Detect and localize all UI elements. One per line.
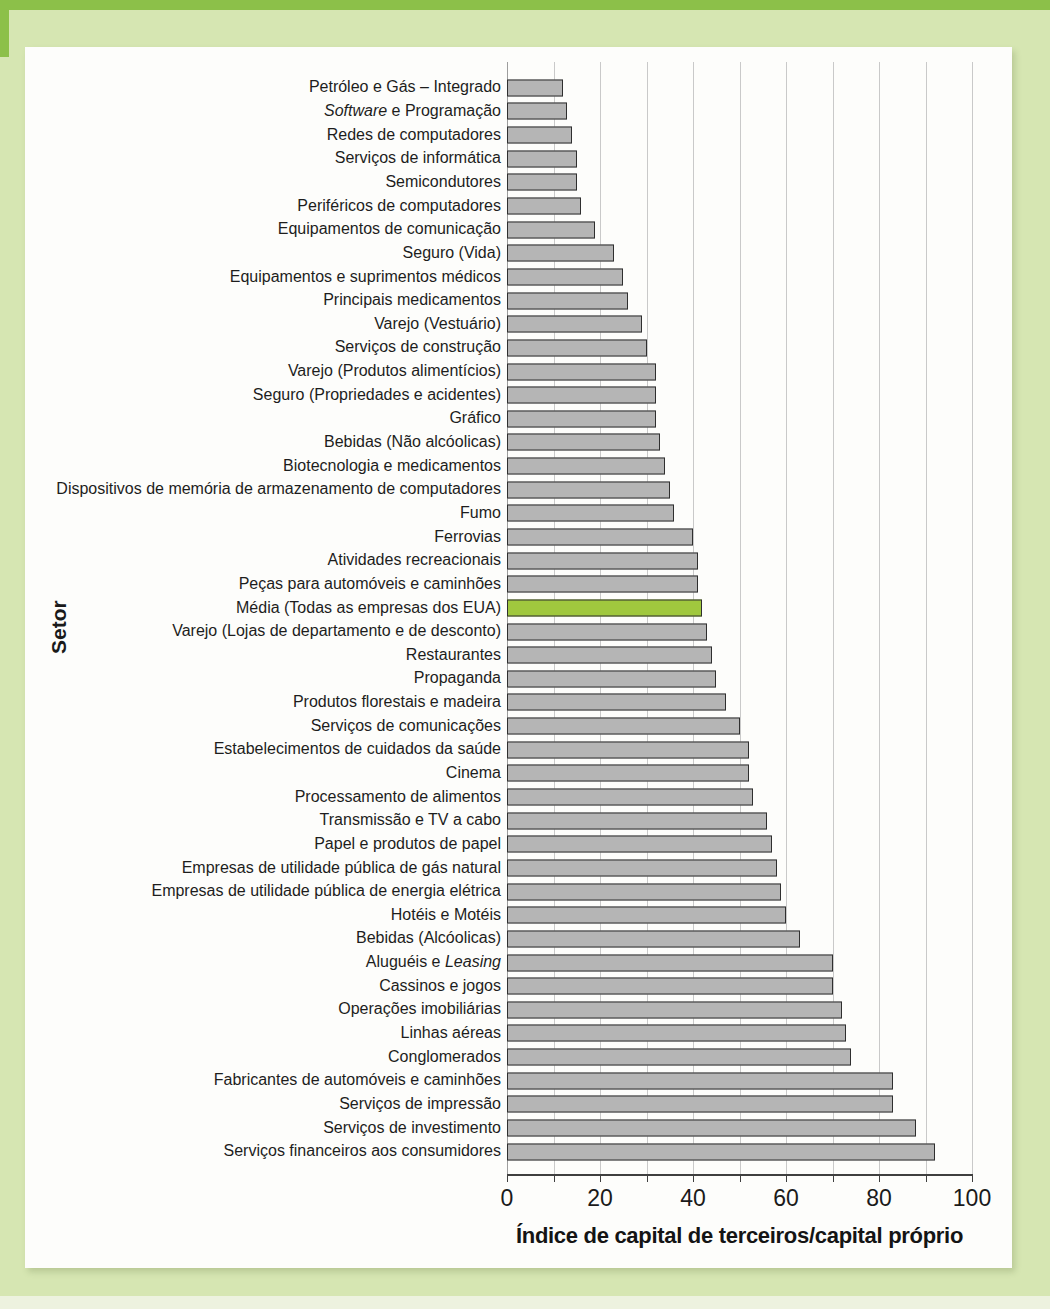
x-axis-tick xyxy=(833,1174,834,1182)
bar xyxy=(507,387,656,404)
bar-label: Varejo (Vestuário) xyxy=(25,316,507,333)
bar-row: Principais medicamentos xyxy=(25,289,972,313)
page: Setor Petróleo e Gás – IntegradoSoftware… xyxy=(0,0,1050,1309)
bar-row: Conglomerados xyxy=(25,1045,972,1069)
x-axis-tick-label: 0 xyxy=(501,1185,514,1212)
bar-label: Hotéis e Motéis xyxy=(25,907,507,924)
x-axis-tick xyxy=(600,1174,601,1182)
bar xyxy=(507,765,749,782)
bar-track xyxy=(507,1069,972,1093)
bar-row: Estabelecimentos de cuidados da saúde xyxy=(25,738,972,762)
bar-row: Ferrovias xyxy=(25,525,972,549)
bar-track xyxy=(507,667,972,691)
bar-track xyxy=(507,880,972,904)
bar xyxy=(507,198,581,215)
bar xyxy=(507,316,642,333)
x-axis-tick-label: 40 xyxy=(680,1185,706,1212)
bar-label: Conglomerados xyxy=(25,1049,507,1066)
x-axis-tick-label: 80 xyxy=(866,1185,892,1212)
x-axis-tick xyxy=(879,1174,880,1182)
bar xyxy=(507,954,833,971)
bar-row: Serviços de investimento xyxy=(25,1116,972,1140)
bar xyxy=(507,647,712,664)
bar-track xyxy=(507,974,972,998)
bar-row: Serviços de comunicações xyxy=(25,714,972,738)
bar-label: Serviços de informática xyxy=(25,150,507,167)
bar-track xyxy=(507,407,972,431)
bar xyxy=(507,1001,842,1018)
bar-track xyxy=(507,691,972,715)
page-bottom-edge xyxy=(0,1296,1050,1309)
bar-row: Serviços de construção xyxy=(25,336,972,360)
bar-track xyxy=(507,1045,972,1069)
bar-label: Periféricos de computadores xyxy=(25,198,507,215)
bar-row: Média (Todas as empresas dos EUA) xyxy=(25,596,972,620)
bar-track xyxy=(507,1140,972,1164)
bar xyxy=(507,292,628,309)
bar-row: Petróleo e Gás – Integrado xyxy=(25,76,972,100)
x-axis-title: Índice de capital de terceiros/capital p… xyxy=(507,1223,972,1249)
bar xyxy=(507,694,726,711)
bar-row: Equipamentos e suprimentos médicos xyxy=(25,265,972,289)
bar-row: Dispositivos de memória de armazenamento… xyxy=(25,478,972,502)
bar-row: Transmissão e TV a cabo xyxy=(25,809,972,833)
bar-row: Serviços de informática xyxy=(25,147,972,171)
bar-track xyxy=(507,549,972,573)
bar xyxy=(507,458,665,475)
bar-label: Linhas aéreas xyxy=(25,1025,507,1042)
bar xyxy=(507,1143,935,1160)
bar-row: Biotecnologia e medicamentos xyxy=(25,454,972,478)
bar xyxy=(507,741,749,758)
bar-label: Bebidas (Não alcóolicas) xyxy=(25,434,507,451)
bar-label: Estabelecimentos de cuidados da saúde xyxy=(25,741,507,758)
bar xyxy=(507,907,786,924)
bar-row: Empresas de utilidade pública de gás nat… xyxy=(25,856,972,880)
bar-label: Empresas de utilidade pública de gás nat… xyxy=(25,860,507,877)
bar-label: Empresas de utilidade pública de energia… xyxy=(25,883,507,900)
bar-label: Gráfico xyxy=(25,410,507,427)
bar-label: Seguro (Propriedades e acidentes) xyxy=(25,387,507,404)
bar xyxy=(507,623,707,640)
x-axis-tick xyxy=(693,1174,694,1182)
bar-row: Serviços de impressão xyxy=(25,1093,972,1117)
bar-track xyxy=(507,856,972,880)
bar-label: Operações imobiliárias xyxy=(25,1001,507,1018)
bar-track xyxy=(507,76,972,100)
bar-label: Atividades recreacionais xyxy=(25,552,507,569)
bar-track xyxy=(507,360,972,384)
bar-row: Peças para automóveis e caminhões xyxy=(25,572,972,596)
bar-track xyxy=(507,194,972,218)
bar xyxy=(507,174,577,191)
bar-track xyxy=(507,147,972,171)
bar-label: Petróleo e Gás – Integrado xyxy=(25,79,507,96)
bar-label: Média (Todas as empresas dos EUA) xyxy=(25,600,507,617)
bar-label: Produtos florestais e madeira xyxy=(25,694,507,711)
bar-row: Papel e produtos de papel xyxy=(25,833,972,857)
bar-label: Redes de computadores xyxy=(25,127,507,144)
bar xyxy=(507,434,660,451)
x-axis-tick xyxy=(972,1174,973,1182)
x-axis-tick xyxy=(554,1174,555,1182)
bar-track xyxy=(507,241,972,265)
bar-label: Restaurantes xyxy=(25,647,507,664)
bar xyxy=(507,127,572,144)
x-axis-ticks xyxy=(507,1174,972,1183)
bar-track xyxy=(507,218,972,242)
x-axis-tick-label: 60 xyxy=(773,1185,799,1212)
bar-row: Atividades recreacionais xyxy=(25,549,972,573)
bar-row: Seguro (Vida) xyxy=(25,241,972,265)
bar-track xyxy=(507,289,972,313)
bar xyxy=(507,481,670,498)
bar xyxy=(507,1096,893,1113)
bar-track xyxy=(507,809,972,833)
bar-row: Produtos florestais e madeira xyxy=(25,691,972,715)
bar xyxy=(507,859,777,876)
bar xyxy=(507,718,740,735)
bar-track xyxy=(507,951,972,975)
x-axis-tick-label: 100 xyxy=(953,1185,991,1212)
bar xyxy=(507,576,698,593)
bar-track xyxy=(507,833,972,857)
x-axis-tick-labels: 020406080100 xyxy=(507,1185,972,1215)
bar-label: Semicondutores xyxy=(25,174,507,191)
bar-track xyxy=(507,927,972,951)
